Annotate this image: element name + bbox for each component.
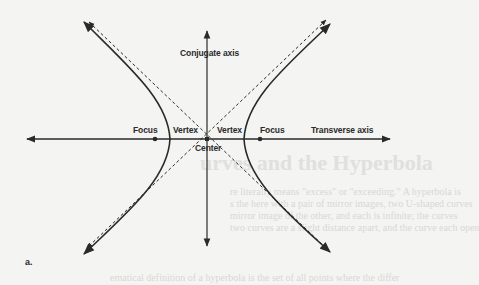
panel-label: a. xyxy=(25,257,33,267)
center-label: Center xyxy=(195,143,222,153)
vertex-label-right: Vertex xyxy=(217,125,242,135)
focus-label-left: Focus xyxy=(133,125,158,135)
conjugate-axis-label: Conjugate axis xyxy=(180,48,239,58)
vertex-label-left: Vertex xyxy=(173,125,198,135)
hyperbola-right-branch xyxy=(244,24,330,252)
focus-label-right: Focus xyxy=(260,125,285,135)
center-point xyxy=(205,137,209,141)
focus-point-right xyxy=(258,137,263,142)
transverse-axis-label: Transverse axis xyxy=(311,125,374,135)
focus-point-left xyxy=(153,137,158,142)
hyperbola-left-branch xyxy=(84,22,170,254)
